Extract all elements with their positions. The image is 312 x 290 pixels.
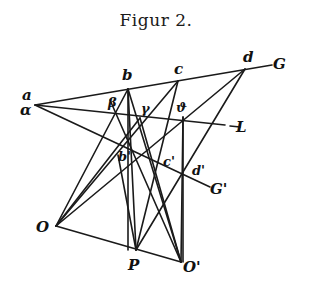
label-P: P — [128, 258, 139, 273]
label-c-prime: c' — [163, 155, 175, 168]
label-G-prime: G' — [210, 182, 227, 197]
label-O: O — [36, 220, 49, 235]
label-G: G — [273, 57, 286, 72]
label-alpha: α — [20, 103, 32, 118]
label-d-prime: d' — [192, 164, 205, 177]
label-O-prime: O' — [183, 260, 201, 275]
line-G — [35, 65, 272, 105]
label-d: d — [243, 50, 254, 65]
label-theta: ϑ — [176, 101, 187, 114]
label-c: c — [174, 62, 183, 77]
label-beta: β — [108, 96, 117, 109]
projective-diagram — [0, 0, 312, 290]
label-b-prime: b' — [118, 150, 131, 163]
label-b: b — [122, 68, 133, 83]
label-L: L — [236, 120, 247, 135]
label-gamma: γ — [141, 102, 150, 115]
